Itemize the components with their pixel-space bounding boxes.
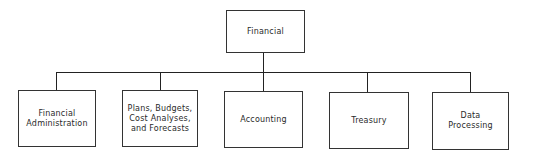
node-accounting: Accounting bbox=[224, 91, 303, 148]
node-label: Plans, Budgets, Cost Analyses, and Forec… bbox=[128, 104, 193, 134]
node-financial-administration: Financial Administration bbox=[18, 90, 96, 147]
drop-line-5 bbox=[470, 72, 471, 92]
node-label: Accounting bbox=[240, 115, 287, 125]
node-label: Treasury bbox=[351, 116, 387, 126]
drop-line-2 bbox=[160, 72, 161, 90]
node-label: Data Processing bbox=[448, 111, 493, 131]
node-plans-budgets: Plans, Budgets, Cost Analyses, and Forec… bbox=[122, 90, 198, 147]
drop-line-4 bbox=[367, 72, 368, 92]
node-treasury: Treasury bbox=[329, 92, 409, 149]
root-node-financial: Financial bbox=[226, 10, 305, 53]
node-data-processing: Data Processing bbox=[432, 92, 509, 150]
drop-line-1 bbox=[56, 72, 57, 90]
node-label: Financial Administration bbox=[26, 109, 87, 129]
root-stem-line bbox=[263, 52, 264, 73]
drop-line-3 bbox=[263, 72, 264, 91]
root-node-label: Financial bbox=[247, 27, 284, 37]
